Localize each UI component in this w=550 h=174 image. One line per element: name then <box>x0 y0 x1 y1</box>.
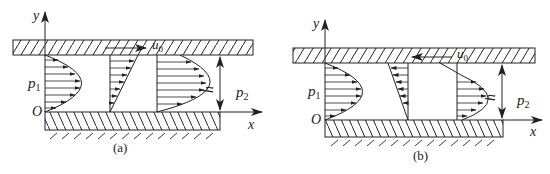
velocity-arrows-linear-b <box>391 68 408 103</box>
pressure-left-a: p1 <box>27 75 41 93</box>
pressure-right-a: p2 <box>235 84 249 102</box>
pressure-right-b: p2 <box>516 92 530 110</box>
velocity-arrows-left-a <box>45 60 80 108</box>
bottom-plate-a <box>45 112 220 130</box>
gap-label-b: h <box>483 94 498 101</box>
linear-profile-b <box>388 63 408 120</box>
caption-b: (b) <box>413 148 428 163</box>
flow-diagram: y x O <box>0 0 550 174</box>
velocity-arrows-left-b <box>325 68 361 116</box>
bottom-plate-b <box>325 120 503 137</box>
ground-hatch-a <box>50 133 213 139</box>
x-axis-label-a: x <box>247 117 255 132</box>
velocity-arrows-combined-a <box>157 62 206 104</box>
caption-a: (a) <box>113 140 127 155</box>
combined-profile-a <box>157 55 210 112</box>
panel-a: y x O <box>13 8 262 155</box>
linear-profile-a <box>110 55 138 112</box>
parabolic-profile-left-a <box>45 55 82 112</box>
panel-b: y x O <box>293 16 542 163</box>
parabolic-profile-left-b <box>325 63 363 120</box>
origin-label-a: O <box>32 104 42 119</box>
top-plate-b <box>293 48 535 63</box>
ground-hatch-b <box>331 140 494 146</box>
gap-label-a: h <box>201 86 216 93</box>
combined-profile-b <box>440 63 488 120</box>
x-axis-label-b: x <box>529 124 537 139</box>
y-axis-label-b: y <box>311 16 320 31</box>
velocity-arrows-linear-a <box>110 61 134 103</box>
pressure-left-b: p1 <box>307 83 321 101</box>
origin-label-b: O <box>311 112 321 127</box>
y-axis-label-a: y <box>31 8 40 23</box>
